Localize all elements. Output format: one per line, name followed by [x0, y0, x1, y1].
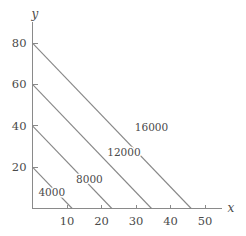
- y-tick-label-60: 60: [12, 77, 27, 91]
- contour-label-4000: 4000: [38, 186, 65, 198]
- x-tick-label-50: 50: [198, 214, 213, 228]
- x-axis-ticks: [67, 205, 205, 209]
- contour-label-12000: 12000: [107, 146, 140, 158]
- y-axis-tick-labels: 20406080: [12, 36, 27, 174]
- y-tick-label-40: 40: [12, 119, 27, 133]
- x-axis-tick-labels: 1020304050: [60, 214, 213, 228]
- x-tick-label-20: 20: [94, 214, 109, 228]
- x-axis-label: x: [228, 201, 235, 215]
- x-tick-label-40: 40: [163, 214, 178, 228]
- x-tick-label-30: 30: [129, 214, 144, 228]
- contour-value-labels: 400040008000800012000120001600016000: [38, 121, 168, 198]
- y-axis-label: y: [31, 7, 39, 21]
- y-axis-ticks: [33, 43, 38, 167]
- contour-label-8000: 8000: [76, 173, 103, 185]
- contour-label-16000: 16000: [135, 121, 168, 133]
- chart-canvas: 1020304050 20406080 40004000800080001200…: [0, 0, 246, 236]
- y-tick-label-20: 20: [12, 160, 27, 174]
- y-tick-label-80: 80: [12, 36, 27, 50]
- contour-chart-figure: 1020304050 20406080 40004000800080001200…: [0, 0, 246, 236]
- x-tick-label-10: 10: [60, 214, 75, 228]
- axes-group: [32, 22, 222, 209]
